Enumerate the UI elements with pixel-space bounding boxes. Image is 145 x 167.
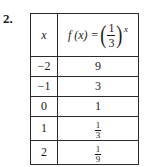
cell-x: 1 [31,117,58,141]
cell-x: −2 [31,57,58,77]
base-fraction: 1 3 [107,22,115,49]
table-row: 0 1 [31,97,139,117]
table-row: −2 9 [31,57,139,77]
function-value-table: x f (x) = ( 1 3 ) x −2 9 −1 3 0 1 1 [30,13,139,165]
cell-x: 2 [31,141,58,165]
cell-fx: 9 [58,57,139,77]
cell-x: 0 [31,97,58,117]
table-header-row: x f (x) = ( 1 3 ) x [31,14,139,57]
header-fx: f (x) = ( 1 3 ) x [58,14,139,57]
table-row: 1 1 3 [31,117,139,141]
table-row: −1 3 [31,77,139,97]
cell-fx: 1 3 [58,117,139,141]
problem-number: 2. [3,11,13,27]
cell-fx: 3 [58,77,139,97]
cell-x: −1 [31,77,58,97]
right-paren: ) [117,22,123,48]
fraction-value: 1 3 [95,121,102,140]
header-x: x [31,14,58,57]
function-lhs: f (x) = [68,28,99,43]
left-paren: ( [100,22,106,48]
cell-fx: 1 9 [58,141,139,165]
fraction-value: 1 9 [95,145,102,164]
table-row: 2 1 9 [31,141,139,165]
exponent: x [124,24,128,34]
cell-fx: 1 [58,97,139,117]
